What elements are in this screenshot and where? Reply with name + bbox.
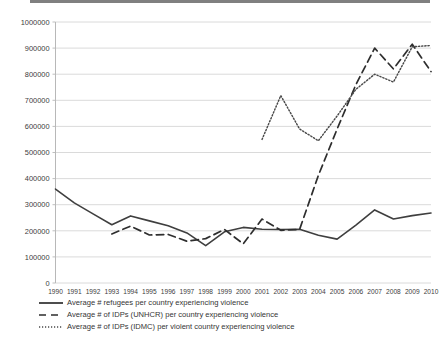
- x-tick-label: 1999: [217, 288, 232, 295]
- y-tick-label: 0: [45, 279, 49, 288]
- x-tick-label: 2010: [424, 288, 439, 295]
- legend-swatch-solid-icon: [38, 298, 64, 308]
- chart-canvas: 0100000200000300000400000500000600000700…: [0, 0, 440, 300]
- y-tick-label: 500000: [25, 148, 50, 157]
- x-tick-label: 1991: [67, 288, 82, 295]
- y-tick-label: 700000: [25, 96, 50, 105]
- legend-label-idps-unhcr: Average # of IDPs (UNHCR) per country ex…: [67, 310, 278, 320]
- y-tick-label: 600000: [25, 122, 50, 131]
- x-tick-label: 2006: [349, 288, 364, 295]
- chart-legend: Average # refugees per country experienc…: [38, 297, 438, 333]
- x-tick-label: 2002: [273, 288, 288, 295]
- x-tick-label: 1996: [161, 288, 176, 295]
- y-tick-labels: 0100000200000300000400000500000600000700…: [21, 18, 50, 288]
- x-tick-label: 1993: [104, 288, 119, 295]
- x-tick-label: 2000: [236, 288, 251, 295]
- y-tick-label: 100000: [25, 253, 50, 262]
- x-tick-label: 2001: [255, 288, 270, 295]
- x-tick-label: 1997: [180, 288, 195, 295]
- x-tick-label: 2004: [311, 288, 326, 295]
- y-tick-label: 200000: [25, 227, 50, 236]
- legend-swatch-dashed-icon: [38, 310, 64, 320]
- x-tick-label: 1995: [142, 288, 157, 295]
- y-tick-label: 800000: [25, 70, 50, 79]
- line-chart-figure: 0100000200000300000400000500000600000700…: [0, 0, 440, 300]
- x-tick-label: 2005: [330, 288, 345, 295]
- legend-swatch-dotted-icon: [38, 322, 64, 332]
- y-tick-label: 300000: [25, 200, 50, 209]
- x-tick-label: 1992: [86, 288, 101, 295]
- x-tick-label: 2007: [367, 288, 382, 295]
- legend-item-idps-unhcr: Average # of IDPs (UNHCR) per country ex…: [38, 309, 438, 321]
- chart-page: 0100000200000300000400000500000600000700…: [0, 0, 440, 347]
- x-tick-label: 2008: [386, 288, 401, 295]
- x-tick-label: 1994: [123, 288, 138, 295]
- y-tick-label: 400000: [25, 174, 50, 183]
- legend-item-idps-idmc: Average # of IDPs (IDMC) per violent cou…: [38, 321, 438, 333]
- x-tick-label: 1998: [198, 288, 213, 295]
- x-tick-label: 1990: [48, 288, 63, 295]
- legend-label-refugees: Average # refugees per country experienc…: [67, 298, 248, 308]
- x-tick-label: 2003: [292, 288, 307, 295]
- x-tick-labels: 1990199119921993199419951996199719981999…: [48, 288, 439, 295]
- legend-label-idps-idmc: Average # of IDPs (IDMC) per violent cou…: [67, 322, 294, 332]
- y-axis: [53, 22, 56, 283]
- y-tick-label: 900000: [25, 44, 50, 53]
- legend-item-refugees: Average # refugees per country experienc…: [38, 297, 438, 309]
- y-tick-label: 1000000: [21, 18, 50, 27]
- series-line-0: [56, 189, 432, 246]
- x-tick-label: 2009: [405, 288, 420, 295]
